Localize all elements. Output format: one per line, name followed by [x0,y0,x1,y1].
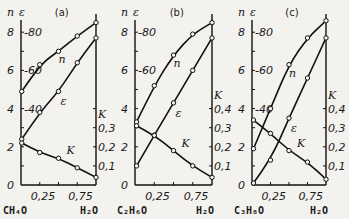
data-point [324,177,328,181]
data-point [251,147,255,151]
data-point [324,36,328,40]
k-tick-label: 0,3 [328,122,346,135]
k-tick-label: 0,2 [214,141,232,154]
data-point [210,175,214,179]
data-point [75,61,79,65]
n-tick-label: 6 [7,64,14,77]
curve-label-n: n [289,67,296,80]
data-point [56,156,60,160]
panel-label: (c) [285,7,298,18]
k-tick-label: 0,1 [98,160,116,173]
data-point [287,116,291,120]
figure-three-panel-chart: 02468-40-60-80nε(a)0,10,20,3K0,250,75CH₄… [0,0,349,219]
data-point [305,36,309,40]
k-tick-label: 0,1 [214,160,232,173]
data-point [94,175,98,179]
data-point [268,106,272,110]
k-axis-symbol: K [97,108,107,121]
n-tick-label: 0 [121,179,128,192]
data-point [75,166,79,170]
k-axis-symbol: K [327,89,337,102]
curve-label-epsilon: ε [61,95,67,108]
panel-c: 02468-40-60-80nε(c)0,10,20,30,4K0,250,75… [234,6,346,216]
k-tick-label: 0,2 [98,141,116,154]
eps-axis-symbol: ε [19,6,25,19]
panel-label: (a) [55,7,69,18]
eps-tick-label: -80 [255,26,273,39]
n-axis-symbol: n [7,6,14,19]
data-point [94,20,98,24]
k-axis-symbol: K [213,89,223,102]
data-point [305,76,309,80]
panel-a: 02468-40-60-80nε(a)0,10,20,3K0,250,75CH₄… [3,6,116,216]
curve-label-epsilon: ε [176,107,182,120]
eps-tick-label: -80 [138,26,156,39]
panel-label: (b) [170,7,184,18]
data-point [191,164,195,168]
n-axis-symbol: n [238,6,245,19]
n-axis-symbol: n [121,6,128,19]
n-tick-label: 2 [121,141,128,154]
n-tick-label: 4 [7,103,14,116]
data-point [38,110,42,114]
data-point [191,32,195,36]
n-tick-label: 2 [7,141,14,154]
data-point [210,36,214,40]
eps-tick-label: -60 [138,64,156,77]
component-left-label: CH₄O [3,205,27,216]
data-point [324,19,328,23]
k-tick-label: 0,2 [328,141,346,154]
data-point [134,164,138,168]
x-tick-label: 0,75 [68,190,93,203]
data-point [75,34,79,38]
n-tick-label: 0 [7,179,14,192]
component-left-label: C₃H₈O [234,205,264,216]
data-point [38,62,42,66]
component-right-label: H₂O [310,205,328,216]
data-point [152,83,156,87]
data-point [210,20,214,24]
x-tick-label: 0,75 [299,190,324,203]
component-right-label: H₂O [196,205,214,216]
k-tick-label: 0,3 [98,122,116,135]
curve-label-n: n [59,53,66,66]
data-point [56,89,60,93]
n-tick-label: 8 [238,26,245,39]
data-point [38,150,42,154]
curve-label-k: K [66,144,76,157]
n-tick-label: 8 [121,26,128,39]
data-point [268,131,272,135]
component-left-label: C₂H₆O [117,205,147,216]
data-point [94,36,98,40]
n-tick-label: 2 [238,141,245,154]
data-point [134,124,138,128]
n-tick-label: 6 [121,64,128,77]
data-point [287,148,291,152]
x-tick-label: 0,25 [31,190,56,203]
n-tick-label: 4 [238,103,245,116]
data-point [171,148,175,152]
data-point [20,141,24,145]
x-tick-label: 0,25 [262,190,287,203]
n-tick-label: 4 [121,103,128,116]
data-point [251,118,255,122]
data-point [152,133,156,137]
eps-axis-symbol: ε [133,6,139,19]
x-tick-label: 0,25 [145,190,170,203]
panel-b: 02468-60-80nε(b)0,10,20,30,4K0,250,75C₂H… [117,6,232,216]
eps-tick-label: -80 [24,26,42,39]
data-point [251,181,255,185]
curve-label-n: n [174,57,181,70]
data-point [20,89,24,93]
eps-axis-symbol: ε [250,6,256,19]
n-tick-label: 0 [238,179,245,192]
k-tick-label: 0,3 [214,122,232,135]
eps-tick-label: -60 [255,64,273,77]
k-tick-label: 0,1 [328,160,346,173]
data-point [191,68,195,72]
n-tick-label: 6 [238,64,245,77]
k-tick-label: 0,4 [328,103,346,116]
curve-label-epsilon: ε [291,122,297,135]
curve-label-k: K [181,137,191,150]
data-point [171,101,175,105]
